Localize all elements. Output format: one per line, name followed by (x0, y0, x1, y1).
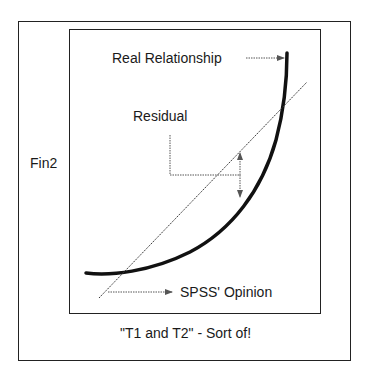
spss-opinion-label: SPSS' Opinion (180, 284, 272, 300)
real-relationship-label: Real Relationship (112, 50, 222, 66)
residual-label: Residual (133, 108, 187, 124)
y-axis-label: Fin2 (30, 155, 57, 171)
real-relationship-curve (86, 53, 287, 274)
spss-regression-line (99, 82, 307, 298)
residual-pointer (170, 135, 240, 175)
caption: "T1 and T2" - Sort of! (120, 325, 251, 341)
